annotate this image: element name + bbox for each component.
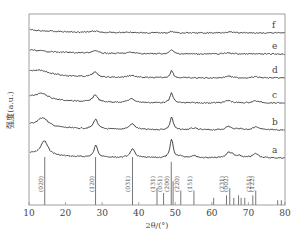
hkl-label: (120) [88,176,95,192]
xrd-chart: abcdef (020)(120)(031)(131)(051)(200)(22… [0,0,304,242]
x-tick-label: 50 [170,208,182,218]
xrd-curve-f [30,29,285,33]
y-axis-label: 强度(a.u.) [5,91,15,128]
xrd-curve-d [30,70,285,79]
xrd-curve-b [30,117,285,130]
x-axis-label: 2θ/(°) [146,221,169,230]
hkl-label: (200) [163,176,170,192]
x-tick-label: 10 [23,208,35,218]
x-tick-label: 70 [243,208,255,218]
xrd-curve-a [30,139,285,158]
xrd-curve-e [30,50,285,55]
hkl-label: (031) [124,176,131,192]
curve-label-c: c [272,90,277,100]
x-tick-label: 80 [279,208,291,218]
curve-label-e: e [272,41,277,51]
reference-lines: (020)(120)(031)(131)(051)(200)(220)(151)… [37,157,282,205]
hkl-label: (002) [222,176,229,192]
curve-label-a: a [272,145,278,155]
hkl-label: (051) [156,176,163,192]
curve-label-d: d [272,65,278,75]
x-tick-label: 60 [206,208,218,218]
x-tick-label: 30 [96,208,108,218]
hkl-label: (220) [173,176,180,192]
xrd-curves: abcdef [30,20,285,158]
curve-label-b: b [272,117,278,127]
hkl-label: (122) [248,176,255,192]
curve-label-f: f [272,20,276,30]
x-tick-label: 40 [133,208,145,218]
xrd-curve-c [30,93,285,104]
hkl-label: (151) [186,176,193,192]
hkl-label: (020) [37,176,44,192]
x-tick-label: 20 [60,208,72,218]
